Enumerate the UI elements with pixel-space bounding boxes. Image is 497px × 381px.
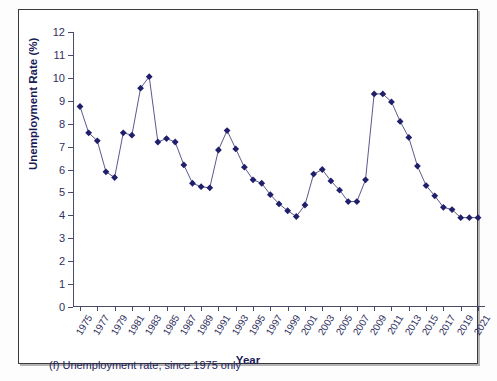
data-point (397, 118, 404, 125)
data-point (103, 168, 110, 175)
x-tick-label: 2017 (437, 313, 458, 337)
data-point (163, 135, 170, 142)
data-point (241, 164, 248, 171)
data-point (77, 103, 84, 110)
x-tick (305, 307, 306, 311)
x-tick-label: 1989 (195, 313, 216, 337)
x-tick-label: 2019 (454, 313, 475, 337)
data-point (189, 180, 196, 187)
x-tick-label: 1975 (74, 313, 95, 337)
x-tick (443, 307, 444, 311)
data-point (120, 129, 127, 136)
y-tick-label: 2 (59, 255, 65, 267)
x-tick (149, 307, 150, 311)
data-point (129, 132, 136, 139)
data-series (73, 32, 485, 307)
y-tick-label: 3 (59, 232, 65, 244)
x-tick (270, 307, 271, 311)
data-point (154, 139, 161, 146)
x-tick-label: 1995 (247, 313, 268, 337)
x-tick (115, 307, 116, 311)
x-tick (409, 307, 410, 311)
data-point (172, 139, 179, 146)
x-tick (461, 307, 462, 311)
y-tick-label: 7 (59, 141, 65, 153)
x-tick-label: 1987 (177, 313, 198, 337)
x-tick-label: 1979 (108, 313, 129, 337)
y-tick-label: 6 (59, 164, 65, 176)
y-tick-label: 5 (59, 186, 65, 198)
x-tick (322, 307, 323, 311)
data-point (466, 214, 473, 221)
x-tick-label: 2013 (402, 313, 423, 337)
x-tick (167, 307, 168, 311)
y-tick-label: 11 (54, 49, 65, 61)
data-point (180, 162, 187, 169)
y-tick-label: 10 (53, 72, 65, 84)
data-point (362, 176, 369, 183)
data-point (198, 183, 205, 190)
x-tick-label: 1985 (160, 313, 181, 337)
x-tick-label: 2005 (333, 313, 354, 337)
data-point (111, 174, 118, 181)
data-point (371, 90, 378, 97)
x-tick-label: 1999 (281, 313, 302, 337)
x-tick-label: 1981 (126, 313, 147, 337)
x-tick-label: 1983 (143, 313, 164, 337)
data-point (310, 171, 317, 178)
plot-area: 0123456789101112 19751977197919811983198… (73, 32, 485, 307)
x-tick (201, 307, 202, 311)
y-tick-label: 8 (59, 118, 65, 130)
x-tick-label: 1991 (212, 313, 233, 337)
figure-caption: (f) Unemployment rate, since 1975 only (49, 359, 241, 371)
figure-container: Unemployment Rate (%) 0123456789101112 1… (0, 0, 497, 381)
y-tick (68, 307, 73, 308)
x-tick (288, 307, 289, 311)
x-tick (391, 307, 392, 311)
y-tick-label: 4 (59, 209, 65, 221)
data-point (475, 214, 482, 221)
x-tick (426, 307, 427, 311)
x-tick (184, 307, 185, 311)
x-tick-label: 2021 (472, 313, 493, 337)
x-tick (478, 307, 479, 311)
figure-frame: Unemployment Rate (%) 0123456789101112 1… (18, 9, 478, 364)
x-tick-label: 2009 (368, 313, 389, 337)
data-point (414, 163, 421, 170)
y-axis-title: Unemployment Rate (%) (27, 38, 39, 170)
x-tick (374, 307, 375, 311)
data-point (353, 198, 360, 205)
data-point (224, 127, 231, 134)
x-tick-label: 2003 (316, 313, 337, 337)
y-tick-label: 9 (59, 95, 65, 107)
series-line (80, 77, 478, 218)
data-point (206, 184, 213, 191)
y-tick-label: 0 (59, 301, 65, 313)
y-tick-label: 12 (53, 26, 65, 38)
x-tick-label: 2015 (420, 313, 441, 337)
data-point (405, 134, 412, 141)
x-tick-label: 2001 (299, 313, 320, 337)
y-tick-label: 1 (59, 278, 65, 290)
data-point (215, 147, 222, 154)
data-point (232, 145, 239, 152)
x-tick-label: 2007 (350, 313, 371, 337)
x-tick (132, 307, 133, 311)
x-tick-label: 2011 (385, 313, 405, 336)
x-tick (236, 307, 237, 311)
x-tick (218, 307, 219, 311)
x-tick-label: 1997 (264, 313, 285, 337)
x-tick (253, 307, 254, 311)
x-tick (340, 307, 341, 311)
x-tick (357, 307, 358, 311)
x-tick (97, 307, 98, 311)
x-tick (80, 307, 81, 311)
x-tick-label: 1977 (91, 313, 112, 337)
data-point (250, 176, 257, 183)
x-tick-label: 1993 (229, 313, 250, 337)
